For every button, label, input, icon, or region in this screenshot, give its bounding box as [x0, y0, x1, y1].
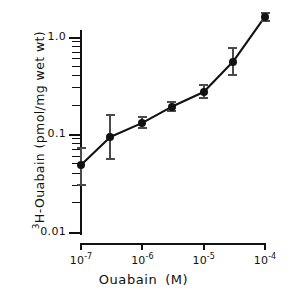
y-axis-title: 3H-Ouabain (pmol/mg wet wt): [31, 15, 47, 245]
y-axis-minor-tick: [72, 143, 80, 144]
x-axis-title: Ouabain (M): [0, 272, 287, 287]
y-axis-minor-tick: [72, 173, 80, 174]
y-axis-minor-tick: [72, 138, 80, 139]
x-tick-exponent: -6: [146, 252, 154, 261]
data-point-marker: [77, 161, 85, 169]
error-bar-cap-lower: [228, 74, 237, 76]
data-point-marker: [229, 58, 237, 66]
x-axis-tick-label: 10-5: [192, 252, 214, 267]
x-axis-tick: [141, 243, 143, 250]
x-tick-mantissa: 10: [192, 254, 206, 267]
x-tick-mantissa: 10: [254, 254, 268, 267]
error-bar-cap-lower: [199, 97, 208, 99]
y-axis-minor-tick: [72, 52, 80, 53]
chart-figure: 0.010.11.0 10-710-610-510-4 3H-Ouabain (…: [0, 0, 287, 300]
error-bar-cap-upper: [138, 116, 147, 118]
error-bar-cap-upper: [199, 84, 208, 86]
y-axis-major-tick: [69, 37, 80, 39]
y-axis-tick-label: 1.0: [48, 30, 66, 43]
x-axis-tick-label: 10-4: [254, 252, 276, 267]
y-axis-title-text: H-Ouabain (pmol/mg wet wt): [32, 31, 47, 223]
y-axis-major-tick: [69, 134, 80, 136]
x-axis-line: [80, 243, 266, 245]
data-point-marker: [261, 13, 269, 21]
y-axis-minor-tick: [72, 75, 80, 76]
x-axis-tick-label: 10-7: [70, 252, 92, 267]
x-tick-exponent: -5: [207, 252, 215, 261]
top-crop-artifact: [0, 0, 287, 10]
x-tick-exponent: -4: [268, 252, 276, 261]
x-axis-tick: [264, 243, 266, 250]
data-point-marker: [168, 103, 176, 111]
error-bar-cap-lower: [138, 127, 147, 129]
x-axis-tick: [203, 243, 205, 250]
y-axis-tick-label: 0.1: [48, 127, 66, 140]
y-axis-minor-tick: [72, 66, 80, 67]
y-axis-line: [80, 30, 82, 235]
y-axis-minor-tick: [72, 41, 80, 42]
y-axis-minor-tick: [72, 149, 80, 150]
y-axis-minor-tick: [72, 105, 80, 106]
x-axis-tick: [80, 243, 82, 250]
y-axis-minor-tick: [72, 156, 80, 157]
error-bar-cap-upper: [106, 114, 115, 116]
y-axis-minor-tick: [72, 87, 80, 88]
data-point-marker: [138, 119, 146, 127]
y-axis-major-tick: [69, 232, 80, 234]
y-axis-minor-tick: [72, 202, 80, 203]
error-bar-cap-lower: [106, 158, 115, 160]
x-tick-mantissa: 10: [70, 254, 84, 267]
y-axis-minor-tick: [72, 58, 80, 59]
data-point-marker: [106, 133, 114, 141]
x-tick-exponent: -7: [84, 252, 92, 261]
y-axis-title-superscript: 3: [31, 223, 41, 229]
x-tick-mantissa: 10: [131, 254, 145, 267]
data-point-marker: [200, 88, 208, 96]
error-bar-cap-lower: [77, 184, 86, 186]
x-axis-tick-label: 10-6: [131, 252, 153, 267]
y-axis-minor-tick: [72, 46, 80, 47]
error-bar-cap-upper: [77, 147, 86, 149]
error-bar-cap-upper: [228, 47, 237, 49]
